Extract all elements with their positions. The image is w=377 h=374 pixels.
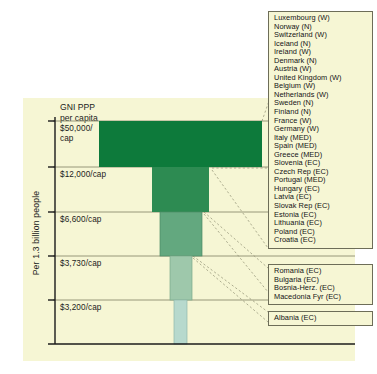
country-item: Croatia (EC) <box>274 236 372 245</box>
country-box-high-income: Luxembourg (W) Norway (N) Switzerland (W… <box>268 11 373 249</box>
bar-3200 <box>174 300 187 344</box>
bar-3730 <box>170 256 192 300</box>
bar-12000 <box>152 167 209 212</box>
country-item: Albania (EC) <box>274 314 372 323</box>
country-box-lower-income: Romania (EC) Bulgaria (EC) Bosnia-Herz. … <box>268 264 373 305</box>
chart-figure: GNI PPPper capita Per 1.3 billion people… <box>0 0 377 374</box>
country-box-lowest-income: Albania (EC) <box>268 311 373 326</box>
bar-50000 <box>99 121 262 167</box>
country-item: Macedonia Fyr (EC) <box>274 293 372 302</box>
bars <box>99 121 262 344</box>
bar-6600 <box>160 212 202 256</box>
